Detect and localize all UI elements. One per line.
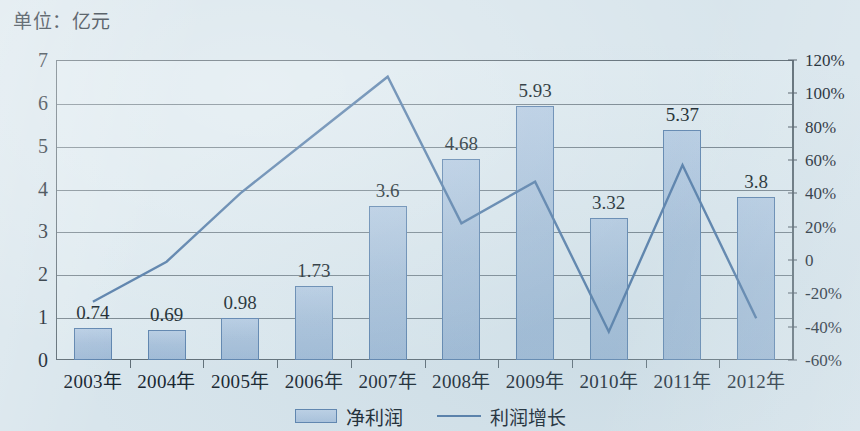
x-axis-tick-mark	[203, 360, 204, 368]
x-axis-tick-mark	[277, 360, 278, 368]
x-axis-tick-mark	[498, 360, 499, 368]
right-axis: -60%-40%-20%020%40%60%80%100%120%	[797, 60, 860, 360]
left-axis-tick-label: 4	[10, 179, 48, 199]
right-axis-line	[793, 60, 794, 360]
left-axis-tick-label: 3	[10, 221, 48, 241]
legend-label-profit-growth: 利润增长	[490, 403, 566, 430]
right-axis-tick-label: 20%	[805, 218, 836, 235]
right-axis-tick-label: -40%	[805, 318, 842, 335]
line-swatch-icon	[437, 415, 481, 417]
left-axis-tick-label: 0	[10, 350, 48, 370]
x-axis-tick-label: 2011年	[646, 366, 720, 396]
right-axis-tick-label: 40%	[805, 185, 836, 202]
right-axis-tick-label: 120%	[805, 52, 845, 69]
legend-item-net-profit: 净利润	[295, 403, 403, 430]
x-axis-tick-label: 2012年	[719, 366, 793, 396]
x-axis-labels: 2003年2004年2005年2006年2007年2008年2009年2010年…	[56, 366, 793, 396]
legend-item-profit-growth: 利润增长	[437, 403, 566, 430]
legend-label-net-profit: 净利润	[346, 403, 403, 430]
x-axis-tick-label: 2010年	[572, 366, 646, 396]
right-axis-tick-label: 60%	[805, 152, 836, 169]
profit-growth-chart: 单位：亿元 01234567 -60%-40%-20%020%40%60%80%…	[0, 0, 860, 431]
x-axis-tick-label: 2006年	[277, 366, 351, 396]
right-axis-tick-label: 100%	[805, 85, 845, 102]
x-axis-tick-label: 2008年	[425, 366, 499, 396]
x-axis-tick-label: 2009年	[498, 366, 572, 396]
left-axis: 01234567	[0, 60, 48, 360]
profit-growth-line-series	[56, 60, 793, 360]
left-axis-tick-label: 6	[10, 93, 48, 113]
unit-caption: 单位：亿元	[13, 6, 111, 33]
right-axis-tick-label: 80%	[805, 118, 836, 135]
x-axis-tick-mark	[719, 360, 720, 368]
growth-polyline	[93, 77, 756, 332]
chart-legend: 净利润 利润增长	[0, 401, 860, 431]
x-axis-tick-mark	[572, 360, 573, 368]
left-axis-tick-label: 7	[10, 50, 48, 70]
x-axis-tick-label: 2004年	[130, 366, 204, 396]
left-axis-tick-label: 2	[10, 264, 48, 284]
x-axis-tick-label: 2003年	[56, 366, 130, 396]
x-axis-tick-mark	[425, 360, 426, 368]
right-axis-tick-label: -60%	[805, 352, 842, 369]
x-axis-tick-label: 2005年	[203, 366, 277, 396]
x-axis-tick-mark	[351, 360, 352, 368]
right-axis-tick-label: 0	[805, 252, 814, 269]
x-axis-tick-mark	[646, 360, 647, 368]
right-axis-tick-label: -20%	[805, 285, 842, 302]
left-axis-tick-label: 5	[10, 136, 48, 156]
left-axis-tick-label: 1	[10, 307, 48, 327]
x-axis-tick-label: 2007年	[351, 366, 425, 396]
x-axis-tick-mark	[130, 360, 131, 368]
bar-swatch-icon	[295, 409, 337, 423]
